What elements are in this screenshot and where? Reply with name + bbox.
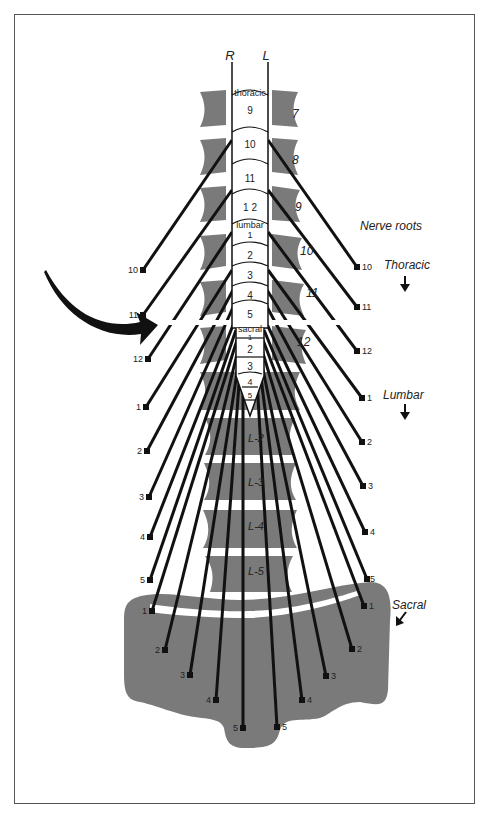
svg-text:5: 5: [233, 723, 238, 733]
legend-title: Nerve roots: [360, 219, 422, 233]
spinal-cord-diagram: R L thoracic 9 10 11 1 2 lumbar 1 2 3 4 …: [0, 0, 486, 814]
svg-text:1: 1: [142, 606, 147, 616]
svg-text:5: 5: [140, 575, 145, 585]
svg-text:5: 5: [282, 722, 287, 732]
svg-text:9: 9: [247, 105, 253, 116]
svg-text:1: 1: [369, 601, 374, 611]
svg-text:10: 10: [300, 244, 314, 258]
legend-lumbar: Lumbar: [383, 388, 425, 402]
svg-text:12: 12: [133, 354, 143, 364]
legend-thoracic: Thoracic: [384, 258, 430, 272]
svg-text:3: 3: [139, 492, 144, 502]
svg-text:2: 2: [247, 250, 253, 261]
svg-text:5: 5: [248, 391, 253, 400]
svg-text:3: 3: [368, 481, 373, 491]
svg-text:4: 4: [140, 532, 145, 542]
cord-lumbar-label: lumbar: [236, 220, 264, 230]
svg-text:11: 11: [306, 286, 318, 300]
svg-text:2: 2: [247, 344, 253, 355]
svg-text:5: 5: [370, 574, 375, 584]
down-arrow-icon: [396, 276, 410, 626]
svg-text:1: 1: [367, 393, 372, 403]
svg-text:1 2: 1 2: [243, 202, 257, 213]
svg-text:L-2: L-2: [248, 432, 264, 444]
right-side-label: R: [225, 48, 234, 63]
svg-text:4: 4: [247, 377, 252, 387]
svg-text:4: 4: [247, 290, 253, 301]
svg-text:7: 7: [292, 107, 300, 121]
svg-text:3: 3: [331, 671, 336, 681]
curved-arrow-icon: [44, 270, 158, 345]
svg-text:10: 10: [362, 262, 372, 272]
left-side-label: L: [262, 48, 269, 63]
svg-text:3: 3: [247, 270, 253, 281]
svg-text:4: 4: [206, 695, 211, 705]
svg-text:2: 2: [155, 645, 160, 655]
svg-text:1: 1: [248, 333, 253, 342]
svg-text:2: 2: [367, 437, 372, 447]
svg-text:4: 4: [370, 527, 375, 537]
svg-text:5: 5: [247, 309, 253, 320]
svg-text:11: 11: [245, 173, 256, 184]
svg-text:11: 11: [362, 302, 371, 312]
svg-text:9: 9: [295, 200, 302, 214]
svg-text:L-3: L-3: [248, 476, 265, 488]
svg-text:3: 3: [180, 670, 185, 680]
svg-text:2: 2: [137, 446, 142, 456]
svg-text:10: 10: [244, 139, 256, 150]
svg-text:12: 12: [362, 346, 372, 356]
svg-text:1: 1: [136, 402, 141, 412]
svg-text:L-5: L-5: [248, 565, 265, 577]
svg-text:1: 1: [247, 230, 252, 240]
svg-text:11: 11: [129, 310, 138, 320]
svg-text:L-4: L-4: [248, 520, 264, 532]
svg-text:8: 8: [292, 153, 299, 167]
svg-text:10: 10: [128, 265, 138, 275]
legend-sacral: Sacral: [392, 598, 426, 612]
svg-text:2: 2: [357, 644, 362, 654]
cord-thoracic-label: thoracic: [234, 88, 266, 98]
svg-text:12: 12: [297, 335, 311, 349]
svg-text:4: 4: [307, 695, 312, 705]
svg-text:3: 3: [247, 361, 253, 372]
